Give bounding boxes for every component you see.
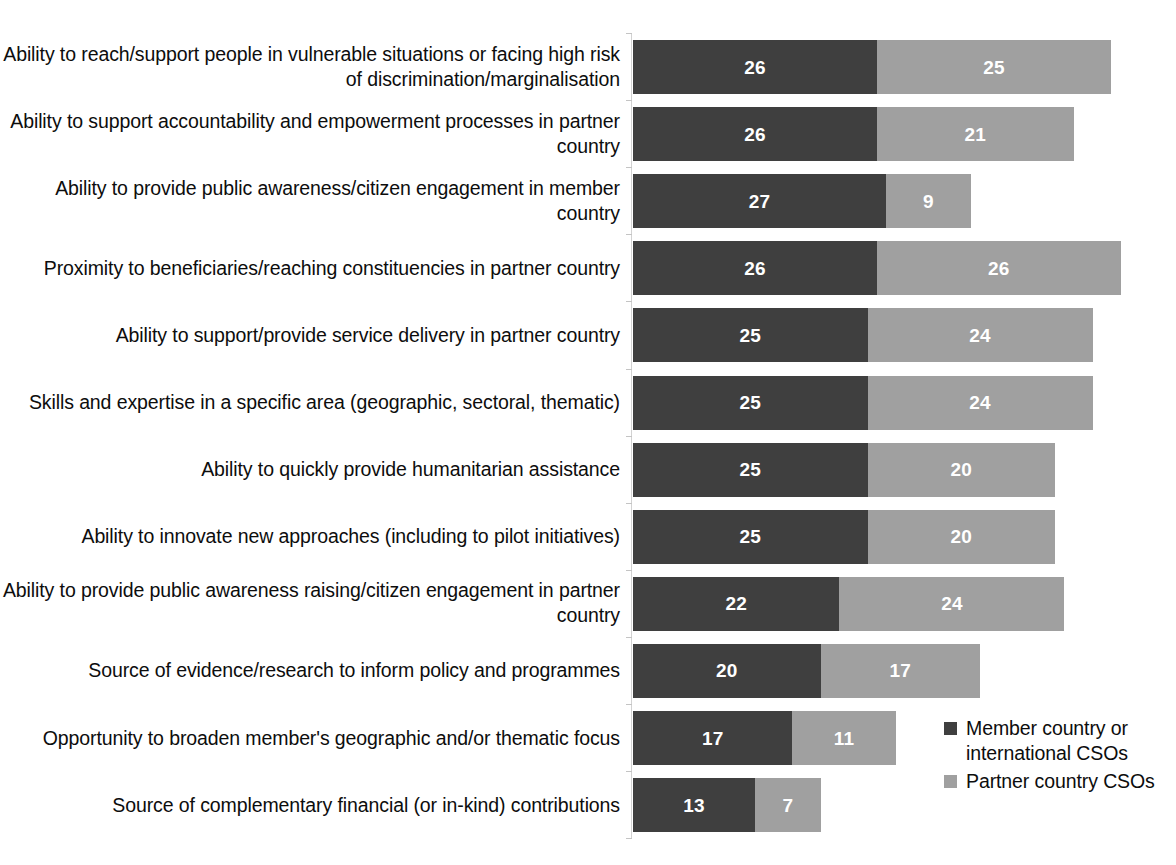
stacked-bar: 137 <box>633 778 821 832</box>
stacked-bar: 2621 <box>633 107 1074 161</box>
bar-value-label: 27 <box>749 192 771 211</box>
bar-value-label: 13 <box>683 796 705 815</box>
bar-segment-series-2: 7 <box>755 778 821 832</box>
legend-swatch-icon <box>944 775 957 788</box>
bar-row: Ability to provide public awareness rais… <box>0 570 1176 637</box>
stacked-bar: 2017 <box>633 644 980 698</box>
legend-swatch-icon <box>944 722 957 735</box>
axis-tick <box>626 838 632 839</box>
bar-segment-series-1: 13 <box>633 778 755 832</box>
bar-value-label: 20 <box>716 661 738 680</box>
bar-value-label: 17 <box>702 729 724 748</box>
legend-item[interactable]: Member country or international CSOs <box>944 716 1176 766</box>
bar-segment-series-1: 17 <box>633 711 792 765</box>
category-label: Ability to support accountability and em… <box>0 109 620 159</box>
bar-value-label: 20 <box>951 527 973 546</box>
category-label: Source of evidence/research to inform po… <box>0 658 620 683</box>
stacked-bar: 2625 <box>633 40 1111 94</box>
bar-segment-series-2: 11 <box>792 711 895 765</box>
bar-row: Ability to support accountability and em… <box>0 100 1176 167</box>
bar-value-label: 25 <box>739 527 761 546</box>
bar-segment-series-2: 17 <box>821 644 980 698</box>
bar-row: Source of evidence/research to inform po… <box>0 637 1176 704</box>
bar-segment-series-1: 22 <box>633 577 839 631</box>
stacked-bar: 2520 <box>633 443 1055 497</box>
stacked-bar: 2524 <box>633 308 1093 362</box>
category-label: Ability to innovate new approaches (incl… <box>0 524 620 549</box>
bar-value-label: 24 <box>969 393 991 412</box>
bar-value-label: 20 <box>951 460 973 479</box>
bar-value-label: 26 <box>744 259 766 278</box>
bar-row: Ability to support/provide service deliv… <box>0 301 1176 368</box>
stacked-bar: 2524 <box>633 376 1093 430</box>
bar-segment-series-1: 26 <box>633 40 877 94</box>
bar-segment-series-1: 25 <box>633 308 868 362</box>
bar-value-label: 7 <box>782 796 793 815</box>
stacked-bar: 279 <box>633 174 971 228</box>
legend-label: Member country or international CSOs <box>966 716 1176 766</box>
bar-segment-series-2: 24 <box>868 376 1093 430</box>
bar-segment-series-2: 26 <box>877 241 1121 295</box>
bar-value-label: 22 <box>725 594 747 613</box>
legend-label: Partner country CSOs <box>966 769 1155 794</box>
bar-value-label: 21 <box>965 125 987 144</box>
bar-value-label: 25 <box>739 326 761 345</box>
legend-item[interactable]: Partner country CSOs <box>944 769 1176 794</box>
bar-value-label: 26 <box>988 259 1010 278</box>
bar-row: Ability to innovate new approaches (incl… <box>0 503 1176 570</box>
bar-segment-series-1: 26 <box>633 107 877 161</box>
category-label: Ability to reach/support people in vulne… <box>0 42 620 92</box>
bar-segment-series-1: 20 <box>633 644 821 698</box>
bar-value-label: 24 <box>969 326 991 345</box>
stacked-bar: 1711 <box>633 711 896 765</box>
bar-segment-series-2: 25 <box>877 40 1112 94</box>
category-label: Ability to support/provide service deliv… <box>0 322 620 347</box>
bar-segment-series-1: 25 <box>633 443 868 497</box>
bar-value-label: 9 <box>923 192 934 211</box>
bar-segment-series-2: 24 <box>839 577 1064 631</box>
bar-segment-series-2: 9 <box>886 174 970 228</box>
bar-value-label: 24 <box>941 594 963 613</box>
bar-row: Ability to reach/support people in vulne… <box>0 33 1176 100</box>
category-label: Ability to quickly provide humanitarian … <box>0 457 620 482</box>
bar-segment-series-1: 27 <box>633 174 886 228</box>
bar-segment-series-1: 26 <box>633 241 877 295</box>
bar-row: Proximity to beneficiaries/reaching cons… <box>0 234 1176 301</box>
stacked-bar: 2224 <box>633 577 1064 631</box>
bar-segment-series-2: 20 <box>868 443 1056 497</box>
category-label: Ability to provide public awareness rais… <box>0 578 620 628</box>
bar-row: Ability to provide public awareness/citi… <box>0 167 1176 234</box>
bar-row: Ability to quickly provide humanitarian … <box>0 436 1176 503</box>
bar-segment-series-1: 25 <box>633 510 868 564</box>
stacked-bar: 2520 <box>633 510 1055 564</box>
bar-value-label: 11 <box>834 729 855 748</box>
bar-value-label: 25 <box>739 460 761 479</box>
bar-segment-series-2: 21 <box>877 107 1074 161</box>
stacked-bar-chart: Ability to reach/support people in vulne… <box>0 0 1176 865</box>
bar-row: Skills and expertise in a specific area … <box>0 369 1176 436</box>
category-label: Skills and expertise in a specific area … <box>0 390 620 415</box>
bar-segment-series-2: 24 <box>868 308 1093 362</box>
bar-value-label: 26 <box>744 58 766 77</box>
bar-value-label: 26 <box>744 125 766 144</box>
bar-value-label: 25 <box>983 58 1005 77</box>
category-label: Opportunity to broaden member's geograph… <box>0 725 620 750</box>
chart-legend: Member country or international CSOsPart… <box>944 716 1176 797</box>
bar-segment-series-2: 20 <box>868 510 1056 564</box>
bar-value-label: 17 <box>890 661 912 680</box>
bar-value-label: 25 <box>739 393 761 412</box>
bar-segment-series-1: 25 <box>633 376 868 430</box>
category-label: Proximity to beneficiaries/reaching cons… <box>0 255 620 280</box>
category-label: Ability to provide public awareness/citi… <box>0 176 620 226</box>
stacked-bar: 2626 <box>633 241 1121 295</box>
category-label: Source of complementary financial (or in… <box>0 792 620 817</box>
